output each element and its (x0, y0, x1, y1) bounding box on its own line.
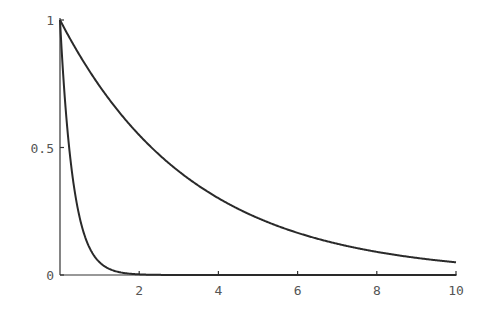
x-tick-label: 8 (373, 283, 381, 298)
fast-decay-curve (60, 20, 456, 275)
y-ticks: 00.51 (31, 13, 64, 283)
x-tick-label: 2 (135, 283, 143, 298)
curves (60, 20, 456, 275)
line-chart: 246810 00.51 (0, 0, 486, 310)
x-tick-label: 6 (294, 283, 302, 298)
y-tick-label: 0 (46, 268, 54, 283)
x-tick-label: 10 (448, 283, 464, 298)
y-tick-label: 0.5 (31, 141, 54, 156)
x-tick-label: 4 (214, 283, 222, 298)
slow-decay-curve (60, 20, 456, 262)
y-tick-label: 1 (46, 13, 54, 28)
axes (60, 18, 457, 275)
